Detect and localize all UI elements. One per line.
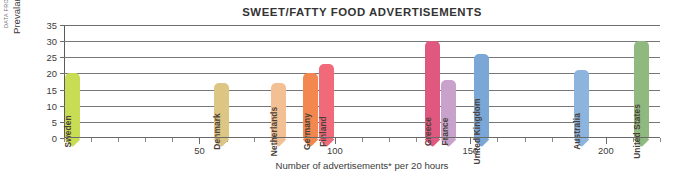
gridline <box>64 41 660 42</box>
gridline <box>64 73 660 74</box>
bar-label: Sweden <box>64 115 72 147</box>
x-tick-label: 200 <box>598 145 614 156</box>
y-tick-mark <box>60 73 64 74</box>
bar-label: Denmark <box>213 113 221 150</box>
y-tick-label: 25 <box>47 52 57 63</box>
gridline <box>64 122 660 123</box>
x-tick-minor <box>172 138 173 142</box>
y-tick-mark <box>60 90 64 91</box>
y-tick-label: 5 <box>52 116 57 127</box>
x-tick-major <box>199 138 200 144</box>
bar-greece[interactable]: Greece <box>425 41 440 138</box>
y-tick-label: 10 <box>47 100 57 111</box>
gridline <box>64 90 660 91</box>
bar-label: Australia <box>573 113 581 150</box>
x-tick-label: 100 <box>327 145 343 156</box>
y-tick-mark <box>60 106 64 107</box>
x-tick-minor <box>389 138 390 142</box>
bar-label: Germany <box>302 112 310 149</box>
y-tick-label: 15 <box>47 84 57 95</box>
y-tick-label: 35 <box>47 20 57 31</box>
bar-germany[interactable]: Germany <box>303 73 318 138</box>
bar-finland[interactable]: Finland <box>319 64 334 138</box>
bar-label: Greece <box>424 116 432 145</box>
x-tick-minor <box>118 138 119 142</box>
gridline <box>64 57 660 58</box>
bar-label: United States <box>633 104 641 159</box>
x-axis-baseline <box>64 137 660 138</box>
bar-united-kingdom[interactable]: United Kingdom <box>474 54 489 138</box>
bar-label: Finland <box>318 116 326 146</box>
bar-label: United Kingdom <box>473 98 481 164</box>
x-tick-minor <box>525 138 526 142</box>
y-tick-mark <box>60 41 64 42</box>
bar-sweden[interactable]: Sweden <box>65 73 80 138</box>
x-axis-title: Number of advertisements* per 20 hours <box>64 160 660 171</box>
y-tick-mark <box>60 25 64 26</box>
plot-area: 05101520253035 50100150200 SwedenDenmark… <box>64 25 660 138</box>
y-tick-mark <box>60 57 64 58</box>
bar-australia[interactable]: Australia <box>574 70 589 138</box>
x-tick-minor <box>660 138 661 142</box>
x-tick-minor <box>254 138 255 142</box>
bar-label: Netherlands <box>270 106 278 156</box>
x-tick-minor <box>552 138 553 142</box>
x-tick-label: 50 <box>194 145 204 156</box>
x-tick-major <box>606 138 607 144</box>
x-tick-minor <box>497 138 498 142</box>
bar-denmark[interactable]: Denmark <box>214 83 229 138</box>
y-tick-label: 20 <box>47 68 57 79</box>
x-tick-major <box>335 138 336 144</box>
x-tick-minor <box>145 138 146 142</box>
y-tick-label: 0 <box>52 133 57 144</box>
chart-figure: DATA FROM LOBSTEIN AND DIBB. 2005. Preva… <box>0 0 680 185</box>
bar-label: France <box>440 117 448 145</box>
x-tick-minor <box>416 138 417 142</box>
y-axis-title: Prevalance (%) of overweight <box>10 0 24 34</box>
chart-title: SWEET/FATTY FOOD ADVERTISEMENTS <box>64 6 660 18</box>
x-tick-minor <box>91 138 92 142</box>
x-tick-minor <box>362 138 363 142</box>
bar-netherlands[interactable]: Netherlands <box>271 83 286 138</box>
bar-united-states[interactable]: United States <box>634 41 649 138</box>
gridline <box>64 106 660 107</box>
y-tick-label: 30 <box>47 36 57 47</box>
bar-france[interactable]: France <box>441 80 456 138</box>
